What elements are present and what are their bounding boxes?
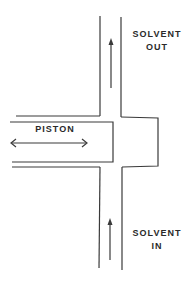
solvent-out-label: SOLVENT OUT xyxy=(126,28,188,54)
solvent-out-label-line1: SOLVENT xyxy=(126,28,188,41)
right-chamber-wall xyxy=(121,117,158,167)
arrow-up-head-out xyxy=(109,38,114,45)
lower-channel-left-wall xyxy=(99,167,100,268)
solvent-in-label-line2: IN xyxy=(126,240,188,253)
solvent-in-label-line1: SOLVENT xyxy=(126,227,188,240)
solvent-in-label: SOLVENT IN xyxy=(126,227,188,253)
arrow-up-head-in xyxy=(108,218,113,225)
piston-label: PISTON xyxy=(30,123,80,136)
solvent-out-label-line2: OUT xyxy=(126,41,188,54)
